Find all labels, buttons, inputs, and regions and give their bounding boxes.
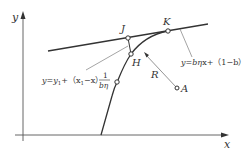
point-j-marker (126, 36, 130, 40)
y-axis: y (11, 11, 26, 141)
x-axis-label: x (224, 138, 231, 151)
normal-eq-frac-num: 1 (103, 71, 108, 80)
point-k-label: K (162, 16, 171, 27)
line-equation: y=bηx+（1−b） (180, 58, 246, 67)
line-equation-leader (180, 29, 192, 57)
normal-eq-lhs: y=y (41, 76, 58, 85)
radius-arrow-icon (144, 52, 149, 58)
normal-equation-leader (86, 46, 128, 70)
x-axis: x (15, 133, 231, 152)
line-eq-rest: x+（1−b） (202, 58, 246, 67)
curve-point-marker (115, 80, 119, 84)
normal-eq-frac-den: bη (99, 81, 109, 90)
geometry-diagram: y x R J K H A y=bηx+（1−b） y=y1+（x1−x） 1 … (0, 0, 248, 155)
point-k-marker (166, 29, 170, 33)
radius-label: R (150, 69, 159, 80)
y-axis-arrow-icon (21, 11, 26, 19)
x-axis-arrow-icon (221, 133, 229, 138)
normal-eq-mid: +（x (61, 76, 81, 85)
line-eq-lhs: y=b (180, 58, 197, 67)
point-h-label: H (131, 57, 141, 68)
point-h-marker (129, 52, 133, 56)
point-a-label: A (180, 83, 188, 94)
point-j-label: J (119, 23, 126, 34)
curve (101, 31, 168, 135)
y-axis-label: y (11, 11, 19, 24)
normal-equation: y=y1+（x1−x） (41, 76, 103, 86)
point-a-marker (175, 86, 179, 90)
